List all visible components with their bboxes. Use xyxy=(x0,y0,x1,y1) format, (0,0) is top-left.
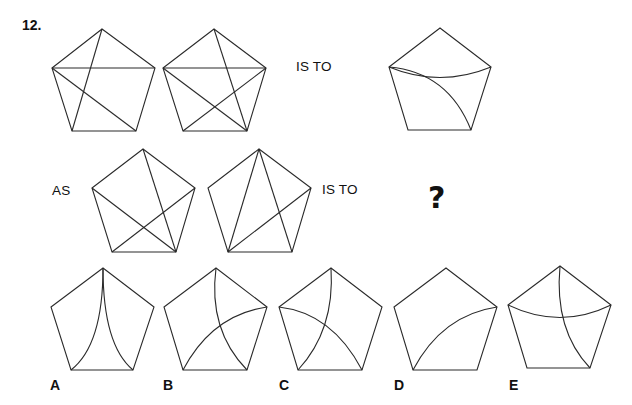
question-number: 12. xyxy=(22,17,41,33)
pentagon-outline xyxy=(279,268,382,370)
connector-is-to-2: IS TO xyxy=(322,182,358,197)
connector-is-to-1: IS TO xyxy=(296,59,332,74)
option-figure-b[interactable] xyxy=(164,268,267,370)
diagonal-line xyxy=(228,149,259,252)
arc-curve xyxy=(413,307,497,370)
option-label-a[interactable]: A xyxy=(50,377,60,393)
connector-as: AS xyxy=(52,183,70,198)
arc-curve xyxy=(389,67,491,78)
arc-curve xyxy=(279,307,362,370)
option-label-d[interactable]: D xyxy=(394,377,404,393)
diagonal-line xyxy=(72,29,102,131)
diagonal-line xyxy=(259,149,292,252)
puzzle-canvas: 12. IS TO AS IS TO ? A B C D E xyxy=(0,0,632,405)
question-figure-2 xyxy=(163,29,266,131)
pentagon-outline xyxy=(164,268,267,370)
question-figure-4 xyxy=(92,149,195,252)
question-figure-1 xyxy=(52,29,155,131)
pentagon-outline xyxy=(394,268,497,370)
diagonal-line xyxy=(143,149,176,252)
pentagon-outline xyxy=(389,28,491,130)
diagonal-line xyxy=(228,188,311,252)
option-figure-c[interactable] xyxy=(279,268,382,370)
unknown-answer-question-mark: ? xyxy=(428,180,445,215)
arc-curve xyxy=(71,268,103,370)
diagonal-line xyxy=(52,68,136,131)
option-label-e[interactable]: E xyxy=(509,377,518,393)
option-label-c[interactable]: C xyxy=(279,377,289,393)
question-figure-5 xyxy=(208,149,311,252)
option-figure-a[interactable] xyxy=(51,268,154,370)
question-figure-3 xyxy=(389,28,491,130)
diagonal-line xyxy=(112,188,195,252)
arc-curve xyxy=(298,268,331,370)
diagonal-line xyxy=(163,68,247,131)
option-figure-e[interactable] xyxy=(508,266,611,368)
diagonal-line xyxy=(214,29,247,131)
diagonal-line xyxy=(183,68,266,131)
option-label-b[interactable]: B xyxy=(163,377,173,393)
option-figure-d[interactable] xyxy=(394,268,497,370)
diagonal-line xyxy=(92,188,176,252)
arc-curve xyxy=(508,305,611,318)
arc-curve xyxy=(103,268,133,370)
